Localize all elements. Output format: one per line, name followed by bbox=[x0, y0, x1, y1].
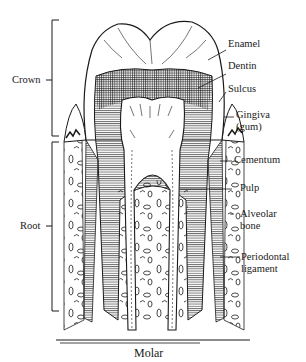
root-bracket bbox=[46, 142, 59, 311]
label-cementum: Cementum bbox=[234, 154, 280, 166]
label-gum: (gum) bbox=[236, 121, 262, 133]
label-ligament: ligament bbox=[241, 263, 278, 275]
label-periodontal: Periodontal bbox=[241, 251, 289, 263]
base-lines bbox=[56, 340, 250, 343]
label-sulcus: Sulcus bbox=[228, 83, 256, 95]
label-enamel: Enamel bbox=[228, 38, 260, 50]
label-alveolar: Alveolar bbox=[240, 208, 277, 220]
label-bone: bone bbox=[240, 220, 260, 232]
label-crown: Crown bbox=[12, 74, 41, 86]
crown-bracket bbox=[46, 20, 59, 136]
label-dentin: Dentin bbox=[228, 60, 257, 72]
label-gingiva: Gingiva bbox=[236, 109, 270, 121]
diagram-caption: Molar bbox=[134, 346, 163, 361]
label-pulp: Pulp bbox=[240, 182, 259, 194]
label-root: Root bbox=[20, 220, 40, 232]
molar-diagram bbox=[0, 0, 306, 362]
